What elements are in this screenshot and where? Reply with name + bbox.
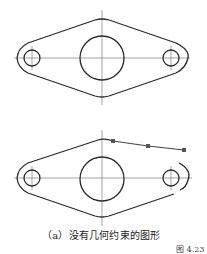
bottom-drawing (14, 130, 192, 226)
bottom-right-arc (179, 163, 189, 190)
grip-points (111, 139, 186, 152)
figure-caption: （a）没有几何约束的图形 (42, 227, 160, 242)
top-drawing (14, 10, 190, 105)
grip-point-3[interactable] (182, 148, 186, 152)
grip-point-1[interactable] (111, 139, 115, 143)
grip-point-2[interactable] (146, 144, 150, 148)
figure-number: 图 4.23 (176, 243, 204, 254)
